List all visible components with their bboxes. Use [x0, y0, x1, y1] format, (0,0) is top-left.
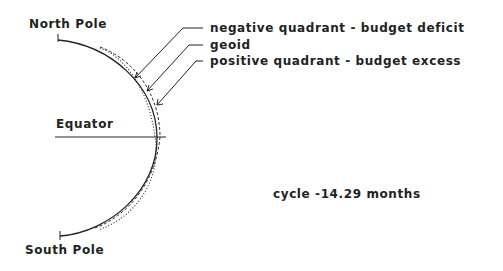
equator-label: Equator [56, 117, 114, 131]
legend-geoid: geoid [210, 38, 251, 52]
legend-positive: positive quadrant - budget excess [210, 54, 461, 68]
geoid-curve [58, 40, 157, 236]
cycle-label: cycle -14.29 months [273, 187, 421, 201]
leader-positive [157, 61, 203, 105]
leader-negative [135, 28, 203, 78]
legend-negative: negative quadrant - budget deficit [210, 21, 465, 35]
south-pole-label: South Pole [25, 243, 104, 257]
north-pole-label: North Pole [29, 17, 107, 31]
geoid-diagram [0, 0, 503, 271]
positive-quadrant-curve [98, 48, 156, 230]
